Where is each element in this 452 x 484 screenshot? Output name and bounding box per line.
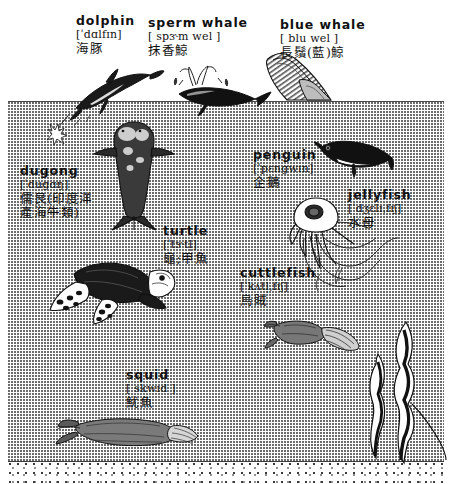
illustration-page: dolphin [ˈdɑlfɪn] 海豚 sperm whale [ spɝm … <box>0 0 452 484</box>
label-jellyfish: jellyfish [ˈdʒɛlɪˌfɪʃ] 水母 <box>348 188 412 230</box>
label-dugong-chinese: 儒艮(印度洋 <box>20 192 93 206</box>
label-sperm-whale-chinese: 抹香鯨 <box>148 44 248 58</box>
label-squid-word: squid <box>126 368 176 382</box>
label-penguin-word: penguin <box>253 148 317 162</box>
label-dugong-word: dugong <box>20 164 93 178</box>
label-cuttlefish: cuttlefish [ˈkʌtl̩ˌfɪʃ] 烏賊 <box>240 266 316 308</box>
label-penguin-chinese: 企鵝 <box>253 176 317 190</box>
label-sperm-whale: sperm whale [ spɝm wel ] 抹香鯨 <box>148 16 248 58</box>
label-sperm-whale-ipa: [ spɝm wel ] <box>148 31 248 43</box>
label-blue-whale: blue whale [ blu wel ] 長鬚(藍)鯨 <box>280 18 366 60</box>
label-squid: squid [ skwɪd ] 魷魚 <box>126 368 176 410</box>
squid-figure <box>60 404 200 460</box>
label-blue-whale-ipa: [ blu wel ] <box>280 33 366 45</box>
label-dolphin-chinese: 海豚 <box>76 42 135 56</box>
label-squid-ipa: [ skwɪd ] <box>126 383 176 395</box>
label-sperm-whale-word: sperm whale <box>148 16 248 30</box>
label-dolphin-ipa: [ˈdɑlfɪn] <box>76 29 135 41</box>
label-blue-whale-word: blue whale <box>280 18 366 32</box>
label-cuttlefish-word: cuttlefish <box>240 266 316 280</box>
kelp-seaweed-figure <box>358 318 452 464</box>
label-turtle-ipa: [ˈtɝtl̩] <box>163 239 208 251</box>
label-dugong: dugong [ˈdugɑŋ] 儒艮(印度洋 產海牛類) <box>20 164 93 220</box>
label-dugong-chinese-line2: 產海牛類) <box>20 206 93 220</box>
dolphin-leaping-figure <box>46 56 166 121</box>
label-blue-whale-chinese: 長鬚(藍)鯨 <box>280 46 366 60</box>
label-jellyfish-word: jellyfish <box>348 188 412 202</box>
label-turtle-chinese: 龜;甲魚 <box>163 252 208 266</box>
label-jellyfish-ipa: [ˈdʒɛlɪˌfɪʃ] <box>348 203 412 215</box>
label-dolphin: dolphin [ˈdɑlfɪn] 海豚 <box>76 14 135 56</box>
label-dolphin-word: dolphin <box>76 14 135 28</box>
label-cuttlefish-ipa: [ˈkʌtl̩ˌfɪʃ] <box>240 281 316 293</box>
label-cuttlefish-chinese: 烏賊 <box>240 294 316 308</box>
label-turtle: turtle [ˈtɝtl̩] 龜;甲魚 <box>163 224 208 266</box>
sea-floor-region <box>8 461 444 483</box>
label-jellyfish-chinese: 水母 <box>348 216 412 230</box>
label-penguin-ipa: [ˈpɛngwɪn] <box>253 163 317 175</box>
dugong-figure <box>94 118 174 236</box>
turtle-figure <box>46 256 181 328</box>
label-turtle-word: turtle <box>163 224 208 238</box>
whale-spout-figure <box>174 66 227 86</box>
sea-scene: dolphin [ˈdɑlfɪn] 海豚 sperm whale [ spɝm … <box>8 6 444 476</box>
penguin-figure <box>314 136 396 178</box>
label-penguin: penguin [ˈpɛngwɪn] 企鵝 <box>253 148 317 190</box>
label-dugong-ipa: [ˈdugɑŋ] <box>20 179 93 191</box>
label-squid-chinese: 魷魚 <box>126 396 176 410</box>
